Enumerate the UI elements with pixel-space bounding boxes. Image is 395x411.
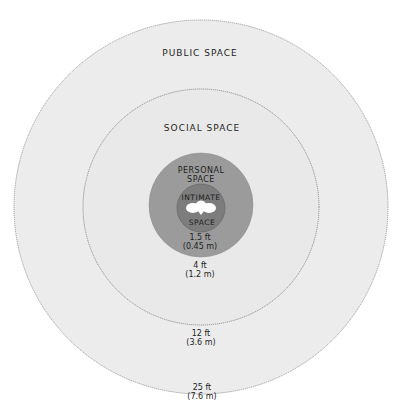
social-space-label: SOCIAL SPACE — [164, 123, 240, 133]
social-distance-m: (3.6 m) — [186, 338, 215, 347]
personal-distance-ft: 4 ft — [193, 261, 206, 270]
personal-distance-m: (1.2 m) — [185, 270, 214, 279]
personal-space-label-line2: SPACE — [187, 175, 215, 184]
public-distance-ft: 25 ft — [193, 383, 212, 392]
intimate-space-label-line2: SPACE — [189, 218, 215, 227]
intimate-distance-m: (0.45 m) — [183, 242, 217, 251]
proxemics-diagram: PUBLIC SPACE SOCIAL SPACE PERSONAL SPACE… — [0, 0, 395, 411]
intimate-distance-ft: 1.5 ft — [189, 233, 210, 242]
public-distance-m: (7.6 m) — [187, 392, 216, 401]
personal-space-label-line1: PERSONAL — [178, 166, 225, 175]
intimate-space-label-line1: INTIMATE — [182, 193, 221, 202]
social-distance-ft: 12 ft — [192, 329, 211, 338]
public-space-label: PUBLIC SPACE — [162, 48, 238, 58]
